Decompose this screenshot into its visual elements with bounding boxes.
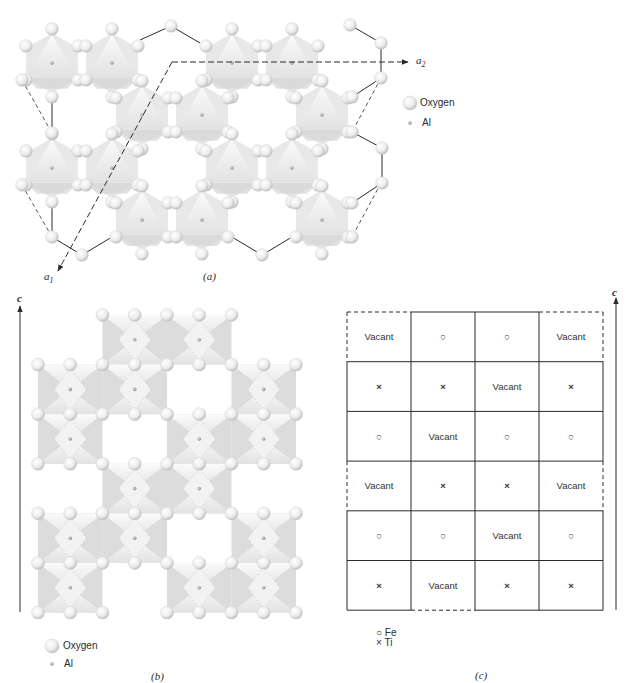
oxygen-atom-icon [316,248,329,261]
axis-c-label-c: c [612,286,617,298]
oxygen-atom-icon [32,408,45,421]
vacant-site-label: Vacant [557,331,586,342]
al-atom-icon [133,536,137,540]
fe-site-icon: ○ [504,431,510,442]
al-octahedron [232,414,297,464]
oxygen-atom-icon [225,408,238,421]
oxygen-atom-icon [96,358,109,371]
oxygen-atom-icon [290,231,303,244]
oxygen-atom-icon [290,358,303,371]
vacant-site-label: Vacant [365,480,394,491]
oxygen-atom-icon [226,128,239,141]
oxygen-atom-icon [286,23,299,36]
fe-site-icon: ○ [440,331,446,342]
oxygen-atom-icon [80,179,93,192]
al-octahedron [167,464,232,514]
al-octahedron [38,414,103,464]
al-atom-icon [200,218,204,222]
al-atom-icon [50,166,54,170]
oxygen-atom-icon [64,557,77,570]
al-atom-icon [262,586,266,590]
oxygen-atom-icon [76,249,89,262]
oxygen-atom-icon [46,91,59,104]
ti-site-icon: × [504,480,510,491]
legend-b-al-label: Al [64,658,73,670]
oxygen-atom-icon [376,177,389,190]
al-octahedron [86,138,138,198]
oxygen-atom-icon [257,408,270,421]
al-atom-icon [320,218,324,222]
oxygen-atom-icon [16,179,29,192]
oxygen-atom-icon [170,92,183,105]
al-atom-icon [408,121,412,125]
al-atom-icon [200,113,204,117]
oxygen-atom-icon [128,457,141,470]
oxygen-atom-icon [193,358,206,371]
ti-site-icon: × [568,381,574,392]
crystal-structure-figure: Vacant○○Vacant××Vacant×○Vacant○○Vacant××… [0,0,629,683]
al-octahedron [116,190,168,250]
oxygen-atom-icon [193,408,206,421]
al-octahedron [232,365,297,415]
al-octahedron [266,138,318,198]
oxygen-atom-icon [346,197,359,210]
boundary-line [352,132,382,203]
oxygen-atom-icon [96,606,109,619]
al-octahedron [232,513,297,563]
oxygen-atom-icon [128,358,141,371]
caption-a: (a) [203,270,216,282]
caption-b: (b) [151,670,164,682]
oxygen-atom-icon [260,179,273,192]
oxygen-atom-icon [64,408,77,421]
oxygen-atom-icon [290,197,303,210]
oxygen-atom-icon [161,309,174,322]
ti-label: Ti [384,637,392,648]
al-atom-icon [110,61,114,65]
oxygen-atom-icon [80,40,93,53]
oxygen-atom-icon [260,40,273,53]
al-octahedron [176,190,228,250]
oxygen-atom-icon [290,557,303,570]
oxygen-atom-icon [64,358,77,371]
ti-site-icon: × [504,580,510,591]
oxygen-atom-icon [257,606,270,619]
oxygen-atom-icon [32,358,45,371]
oxygen-atom-icon [260,74,273,87]
oxygen-atom-icon [46,23,59,36]
al-octahedron [26,33,78,93]
al-octahedron [103,365,168,415]
oxygen-atom-icon [80,145,93,158]
oxygen-atom-icon [260,145,273,158]
oxygen-atom-icon [110,231,123,244]
oxygen-atom-icon [128,309,141,322]
al-atom-icon [68,388,72,392]
al-atom-icon [68,586,72,590]
oxygen-atom-icon [106,23,119,36]
oxygen-atom-icon [161,606,174,619]
oxygen-atom-icon [344,19,357,32]
fe-site-icon: ○ [376,530,382,541]
oxygen-atom-icon [193,507,206,520]
al-octahedron [103,315,168,365]
oxygen-atom-icon [312,40,325,53]
panel-a-basal-plane-view [16,19,417,271]
panel-c-site-occupancy-grid: Vacant○○Vacant××Vacant×○Vacant○○Vacant××… [347,298,616,610]
oxygen-atom-icon [128,408,141,421]
al-atom-icon [262,388,266,392]
oxygen-atom-icon [257,457,270,470]
axis-c-label-b: c [17,292,22,304]
oxygen-atom-icon [132,145,145,158]
oxygen-atom-icon [32,507,45,520]
boundary-dashed-line [352,183,381,237]
oxygen-atom-icon [64,606,77,619]
al-octahedron [232,563,297,613]
oxygen-atom-icon [161,457,174,470]
al-atom-icon [133,487,137,491]
legend-a-oxygen-label: Oxygen [420,97,454,109]
oxygen-atom-icon [45,639,59,653]
oxygen-atom-icon [96,457,109,470]
oxygen-atom-icon [193,606,206,619]
legend-a-al-label: Al [422,117,431,129]
oxygen-atom-icon [170,231,183,244]
oxygen-atom-icon [257,507,270,520]
